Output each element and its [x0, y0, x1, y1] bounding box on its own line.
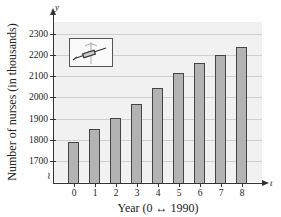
y-tick-label: 1800: [22, 135, 48, 145]
bar-0: [68, 142, 79, 183]
x-tick-label: 8: [235, 188, 249, 198]
y-tick-label: 2300: [22, 29, 48, 39]
gridline: [54, 34, 262, 35]
syringe-illustration-icon: [69, 38, 113, 67]
x-tick-label: 5: [172, 188, 186, 198]
bar-3: [131, 104, 142, 183]
y-tick-label: 1700: [22, 156, 48, 166]
x-tick-label: 7: [214, 188, 228, 198]
y-tick-label: 2000: [22, 92, 48, 102]
bar-7: [215, 55, 226, 183]
axis-break-icon: ≀: [47, 170, 51, 181]
x-tick-label: 4: [151, 188, 165, 198]
x-axis-title: Year (0 ↔ 1990): [54, 201, 262, 216]
bar-5: [173, 73, 184, 183]
x-tick-label: 1: [88, 188, 102, 198]
bar-1: [89, 129, 100, 183]
bar-6: [194, 63, 205, 183]
x-axis: [53, 183, 263, 184]
x-tick-label: 6: [193, 188, 207, 198]
bar-8: [236, 47, 247, 183]
x-axis-arrow-icon: [262, 180, 269, 186]
x-tick-label: 0: [67, 188, 81, 198]
y-tick-label: 2200: [22, 50, 48, 60]
y-tick-label: 1900: [22, 114, 48, 124]
x-tick-label: 3: [130, 188, 144, 198]
y-tick-label: 2100: [22, 71, 48, 81]
x-axis-variable: t: [270, 178, 273, 188]
bar-4: [152, 88, 163, 183]
y-axis-title: Number of nurses (in thousands): [5, 2, 20, 202]
bar-2: [110, 118, 121, 183]
y-axis: [53, 12, 54, 183]
y-axis-variable: y: [55, 2, 59, 12]
gridline: [54, 76, 262, 77]
x-tick-label: 2: [109, 188, 123, 198]
